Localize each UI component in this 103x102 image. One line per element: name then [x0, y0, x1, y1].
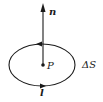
- loop-label: l: [40, 87, 44, 98]
- point-p-dot: [41, 63, 45, 67]
- normal-vector-label: n: [49, 6, 56, 17]
- normal-vector-arrowhead-icon: [41, 3, 46, 12]
- point-label: P: [46, 60, 54, 71]
- area-label: ΔS: [81, 59, 96, 70]
- loop-direction-arrow-top-icon: [36, 42, 42, 47]
- loop-normal-diagram: n P ΔS l: [0, 0, 103, 102]
